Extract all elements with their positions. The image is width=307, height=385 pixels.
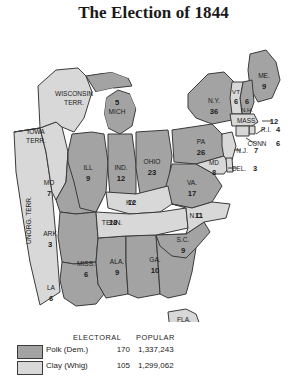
state-shape-rhode-island[interactable]: [249, 126, 255, 134]
legend-electoral-clay: 105: [104, 361, 130, 370]
label-virginia: VA.: [187, 179, 197, 186]
map-container: WISCONSIN TERR. IOWA TERR. UNORG. TERR. …: [0, 22, 307, 322]
legend-header-popular: POPULAR: [136, 333, 175, 342]
label-delaware-votes: 3: [253, 164, 257, 173]
label-connecticut-votes: 6: [276, 139, 280, 148]
label-illinois: ILL: [83, 164, 92, 171]
label-south-carolina-votes: 9: [181, 246, 185, 255]
legend-swatch-polk: [17, 345, 43, 359]
label-indiana: IND.: [114, 164, 127, 171]
label-missouri-votes: 7: [47, 189, 51, 198]
label-louisiana: LA: [47, 284, 56, 291]
label-missouri: MO: [44, 179, 55, 186]
label-south-carolina: S.C.: [177, 236, 190, 243]
label-ohio: OHIO: [144, 158, 161, 165]
label-tennessee-votes: 13: [109, 218, 117, 227]
label-illinois-votes: 9: [86, 174, 90, 183]
label-kentucky-votes: 12: [128, 198, 136, 207]
label-unorganized-territory: UNORG. TERR.: [25, 196, 32, 244]
label-pennsylvania-votes: 26: [197, 148, 205, 157]
label-michigan: MICH: [109, 108, 126, 115]
lake-huron-erie-water: [130, 76, 182, 120]
label-new-jersey: N.J.: [236, 147, 248, 154]
label-ohio-votes: 23: [148, 168, 156, 177]
label-iowa-territory-line1: IOWA: [27, 128, 45, 135]
label-wisconsin-territory-line2: TERR.: [64, 99, 84, 106]
map-legend: ELECTORAL POPULAR Polk (Dem.) 170 1,337,…: [0, 328, 307, 385]
label-rhode-island-votes: 4: [276, 125, 281, 134]
label-pennsylvania: PA: [197, 138, 206, 145]
label-new-york: N.Y.: [208, 97, 220, 104]
label-new-york-votes: 36: [210, 107, 218, 116]
label-delaware: DEL.: [232, 165, 246, 172]
label-maine-votes: 9: [262, 82, 266, 91]
label-alabama-votes: 9: [115, 268, 119, 277]
label-florida-territory-line1: FLA.: [177, 316, 191, 322]
label-vermont: VT: [232, 88, 240, 95]
label-massachusetts: MASS.: [237, 117, 257, 124]
label-new-jersey-votes: 7: [254, 146, 258, 155]
legend-swatch-clay: [17, 361, 43, 375]
label-rhode-island: R.I.: [261, 126, 271, 133]
label-north-carolina-votes: 11: [195, 211, 204, 220]
label-new-hampshire: N.H.: [241, 107, 253, 113]
label-maryland: MD: [209, 159, 219, 166]
page-title: The Election of 1844: [0, 3, 307, 23]
label-indiana-votes: 12: [117, 174, 125, 183]
legend-header-electoral: ELECTORAL: [73, 333, 121, 342]
state-shape-arkansas[interactable]: [58, 212, 98, 264]
label-iowa-territory-line2: TERR.: [26, 137, 46, 144]
label-georgia-votes: 10: [151, 266, 159, 275]
legend-popular-polk: 1,337,243: [138, 345, 174, 354]
label-maryland-votes: 8: [212, 168, 216, 177]
label-louisiana-votes: 6: [49, 294, 53, 303]
label-mississippi: MISS.: [77, 260, 95, 267]
label-arkansas-votes: 3: [48, 240, 52, 249]
state-shape-connecticut[interactable]: [236, 126, 249, 136]
legend-candidate-clay: Clay (Whig): [46, 361, 88, 370]
legend-electoral-polk: 170: [104, 345, 130, 354]
label-mississippi-votes: 6: [84, 270, 88, 279]
united-states-map: WISCONSIN TERR. IOWA TERR. UNORG. TERR. …: [0, 22, 307, 322]
label-new-hampshire-votes: 6: [245, 97, 249, 106]
label-arkansas: ARK: [43, 230, 57, 237]
state-shape-mississippi[interactable]: [96, 236, 128, 298]
legend-popular-clay: 1,299,062: [138, 361, 174, 370]
legend-candidate-polk: Polk (Dem.): [46, 345, 88, 354]
label-maine: ME.: [258, 72, 270, 79]
label-georgia: GA.: [149, 256, 161, 263]
label-virginia-votes: 17: [188, 189, 196, 198]
label-vermont-votes: 6: [234, 97, 238, 106]
label-alabama: ALA.: [110, 258, 124, 265]
label-wisconsin-territory-line1: WISCONSIN: [55, 90, 93, 97]
